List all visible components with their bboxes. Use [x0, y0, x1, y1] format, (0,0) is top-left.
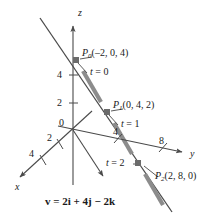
- point-label-p1: P1(0, 4, 2): [113, 100, 154, 112]
- z-tick-label-2: 2: [57, 98, 62, 108]
- point-marker-p1: [104, 109, 110, 115]
- point-label-p1-coords: (0, 4, 2): [123, 99, 155, 110]
- parameter-label-t2-value: = 2: [111, 157, 124, 168]
- parameter-label-t0: t = 0: [90, 67, 108, 77]
- point-label-p2-coords: (2, 8, 0): [165, 170, 197, 181]
- z-axis-label: z: [78, 8, 82, 18]
- parameter-label-t1: t = 1: [121, 119, 139, 129]
- x-tick-label-4: 4: [29, 149, 34, 159]
- origin-label: 0: [59, 118, 64, 128]
- z-tick-label-4: 4: [57, 70, 62, 80]
- negative-direction-arrow: [73, 130, 103, 176]
- parameter-label-t0-var: t: [90, 66, 93, 77]
- point-marker-p2: [135, 160, 141, 166]
- vector-line-3d-figure: z y x 4 2 0 4 8 2 4 P0(–2, 0, 4) t = 0 P…: [0, 0, 219, 222]
- parameter-label-t1-var: t: [121, 118, 124, 129]
- parameter-label-t2-var: t: [106, 157, 109, 168]
- vector-equation-rhs: = 2i + 4j − 2k: [53, 195, 115, 207]
- parameter-label-t0-value: = 0: [95, 66, 108, 77]
- point-marker-p0: [73, 57, 79, 63]
- down-right-arrow: [73, 130, 103, 176]
- parameter-label-t2: t = 2: [106, 158, 124, 168]
- y-axis-label: y: [190, 149, 194, 159]
- z-axis: [69, 26, 78, 185]
- line-highlight-segments: [83, 71, 163, 205]
- parameter-label-t1-value: = 1: [126, 118, 139, 129]
- figure-canvas: [0, 0, 219, 222]
- y-tick-label-4: 4: [113, 127, 118, 137]
- point-label-p0: P0(–2, 0, 4): [82, 48, 128, 60]
- x-axis-label: x: [15, 182, 19, 192]
- x-axis: [20, 111, 92, 177]
- vector-equation-symbol: v: [45, 195, 51, 207]
- point-label-p0-coords: (–2, 0, 4): [92, 47, 129, 58]
- y-tick-label-8: 8: [159, 136, 164, 146]
- point-label-p2: P2(2, 8, 0): [155, 171, 196, 183]
- vector-equation: v = 2i + 4j − 2k: [45, 196, 115, 207]
- x-tick-label-2: 2: [47, 133, 52, 143]
- x-axis-line: [20, 111, 92, 177]
